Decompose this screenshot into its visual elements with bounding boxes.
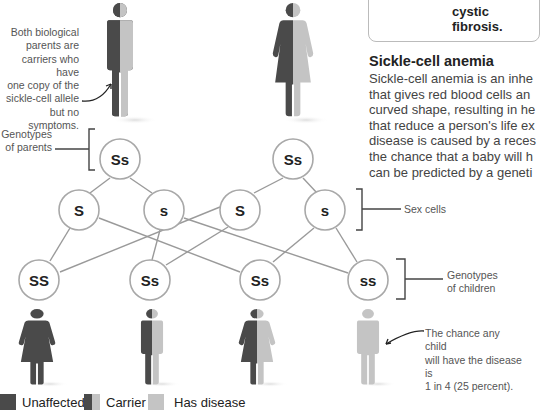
parents-bracket: [89, 129, 95, 170]
child-carrier-female-figure: [239, 309, 288, 387]
legend-item-has-disease: Has disease: [148, 392, 246, 412]
sex-cell-label: S: [235, 202, 245, 219]
legend-label: Carrier: [106, 395, 146, 410]
child-genotype-label: Ss: [251, 272, 269, 289]
legend-label: Unaffected: [22, 395, 85, 410]
children-bracket: [396, 259, 405, 299]
parents-note-arrow: [82, 84, 111, 101]
legend-item-carrier: Carrier: [84, 392, 146, 412]
parent-genotype-label: Ss: [111, 151, 129, 168]
connector-lines: [50, 178, 357, 273]
parent-genotype-label: Ss: [284, 151, 302, 168]
chance-note-arrow: [386, 331, 424, 344]
child-unaffected-figure: [19, 309, 68, 387]
carrier-swatch: [84, 394, 100, 410]
has-disease-swatch: [148, 394, 164, 410]
child-genotype-label: Ss: [141, 272, 159, 289]
sex-cell-label: s: [160, 202, 168, 219]
child-genotype-label: ss: [360, 272, 377, 289]
parent-male-figure: [107, 3, 157, 124]
sex-cell-label: S: [74, 202, 84, 219]
sex-cell-label: s: [321, 202, 329, 219]
child-has-disease-figure: [357, 309, 396, 387]
child-genotype-label: SS: [29, 272, 49, 289]
sex-cells-bracket: [356, 189, 362, 230]
parent-female-figure: [273, 3, 328, 124]
child-carrier-male-figure: [141, 309, 180, 387]
legend-label: Has disease: [174, 395, 246, 410]
legend-item-unaffected: Unaffected: [0, 392, 85, 412]
unaffected-swatch: [0, 394, 16, 410]
